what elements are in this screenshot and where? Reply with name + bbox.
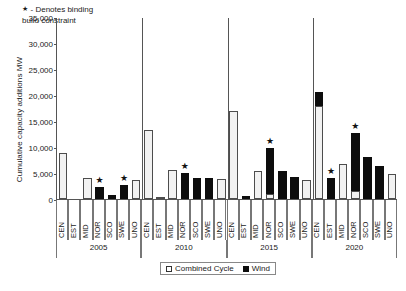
bar-2015-SCO	[278, 17, 287, 199]
bar-2015-CEN	[229, 17, 238, 199]
bar-segment-wind	[290, 177, 299, 199]
binding-star-icon: ★	[266, 137, 274, 146]
bar-2005-MID	[83, 17, 92, 199]
x-category-label: NOR	[93, 221, 102, 238]
binding-star-icon: ★	[327, 167, 335, 176]
x-category-2015-SWE: SWE	[287, 200, 299, 240]
bar-segment-combined-cycle	[351, 191, 360, 199]
legend-label-combined-cycle: Combined Cycle	[175, 264, 234, 273]
bar-segment-combined-cycle	[388, 174, 397, 199]
x-group-label-2015: 2015	[227, 240, 312, 258]
y-tick-label: 25,000	[29, 66, 53, 75]
bar-segment-wind	[181, 173, 190, 199]
bar-2015-SWE	[290, 17, 299, 199]
bar-2020-CEN	[315, 17, 324, 199]
x-category-label: SCO	[276, 222, 285, 238]
x-category-2020-CEN: CEN	[312, 200, 324, 240]
x-category-label: MID	[166, 224, 175, 238]
x-category-2015-EST: EST	[239, 200, 251, 240]
bar-segment-combined-cycle	[156, 197, 165, 199]
x-category-label: UNO	[385, 221, 394, 238]
bar-segment-wind	[375, 166, 384, 199]
x-category-label: SWE	[203, 221, 212, 238]
x-category-label: EST	[69, 223, 78, 238]
x-category-2010-SWE: SWE	[202, 200, 214, 240]
bar-segment-combined-cycle	[266, 194, 275, 199]
x-category-label: CEN	[142, 222, 151, 238]
plot-area: 35,00030,00025,00020,00015,00010,0005,00…	[56, 18, 397, 200]
bar-segment-wind	[193, 178, 202, 199]
x-category-2020-UNO: UNO	[385, 200, 397, 240]
x-category-label: NOR	[349, 221, 358, 238]
bar-2015-UNO	[302, 17, 311, 199]
x-category-label: SCO	[191, 222, 200, 238]
x-group-label-2005: 2005	[56, 240, 141, 258]
bar-2015-EST	[242, 17, 251, 199]
y-tick-label: 20,000	[29, 92, 53, 101]
x-category-2015-MID: MID	[251, 200, 263, 240]
bar-segment-wind	[108, 195, 117, 199]
x-category-label: UNO	[300, 221, 309, 238]
x-category-label: SWE	[288, 221, 297, 238]
bar-2005-UNO	[132, 17, 141, 199]
bar-segment-wind	[327, 178, 336, 199]
x-category-2005-MID: MID	[80, 200, 92, 240]
x-category-label: NOR	[178, 221, 187, 238]
legend-item-combined-cycle: Combined Cycle	[166, 264, 234, 273]
x-category-label: SCO	[105, 222, 114, 238]
x-category-label: CEN	[57, 222, 66, 238]
x-category-label: SCO	[361, 222, 370, 238]
x-group-label-2010: 2010	[141, 240, 226, 258]
x-category-2010-MID: MID	[166, 200, 178, 240]
bar-segment-wind	[363, 157, 372, 199]
chart-container: Cumulative capacity additions MW ★ - Den…	[0, 0, 406, 291]
x-category-label: UNO	[130, 221, 139, 238]
binding-star-icon: ★	[181, 162, 189, 171]
x-category-2015-UNO: UNO	[300, 200, 312, 240]
x-category-2010-EST: EST	[153, 200, 165, 240]
bar-segment-combined-cycle	[302, 180, 311, 199]
x-category-label: EST	[325, 223, 334, 238]
bar-2020-SWE	[375, 17, 384, 199]
x-category-label: MID	[251, 224, 260, 238]
x-category-label: MID	[81, 224, 90, 238]
x-category-label: EST	[154, 223, 163, 238]
bar-2010-NOR	[181, 17, 190, 199]
x-category-label: MID	[337, 224, 346, 238]
x-category-label: EST	[239, 223, 248, 238]
x-category-label: UNO	[215, 221, 224, 238]
bar-segment-wind	[351, 133, 360, 191]
x-category-2010-SCO: SCO	[190, 200, 202, 240]
x-category-2020-MID: MID	[336, 200, 348, 240]
bar-2005-SCO	[108, 17, 117, 199]
y-tick-label: 35,000	[29, 14, 53, 23]
x-category-2015-CEN: CEN	[227, 200, 239, 240]
x-category-label: SWE	[117, 221, 126, 238]
bar-segment-combined-cycle	[83, 178, 92, 199]
group-separator	[313, 18, 314, 200]
star-icon: ★	[22, 5, 28, 12]
legend-swatch-wind	[243, 266, 249, 272]
x-category-2020-SWE: SWE	[373, 200, 385, 240]
x-category-2020-SCO: SCO	[360, 200, 372, 240]
x-category-2005-UNO: UNO	[129, 200, 141, 240]
bar-segment-combined-cycle	[217, 179, 226, 199]
bar-2020-NOR	[351, 17, 360, 199]
x-category-2015-SCO: SCO	[275, 200, 287, 240]
bar-2010-MID	[168, 17, 177, 199]
bar-segment-combined-cycle	[229, 111, 238, 199]
chart-legend: Combined Cycle Wind	[160, 262, 276, 275]
x-category-2005-NOR: NOR	[93, 200, 105, 240]
x-category-2005-EST: EST	[68, 200, 80, 240]
binding-star-icon: ★	[96, 176, 104, 185]
y-tick-label: 15,000	[29, 118, 53, 127]
legend-label-wind: Wind	[252, 264, 270, 273]
bar-2015-NOR	[266, 17, 275, 199]
bar-segment-wind	[95, 187, 104, 199]
bar-segment-wind	[278, 171, 287, 199]
y-tick-label: 10,000	[29, 144, 53, 153]
bar-segment-combined-cycle	[168, 170, 177, 199]
x-category-2020-NOR: NOR	[348, 200, 360, 240]
x-group-label-2020: 2020	[312, 240, 397, 258]
bar-2020-SCO	[363, 17, 372, 199]
